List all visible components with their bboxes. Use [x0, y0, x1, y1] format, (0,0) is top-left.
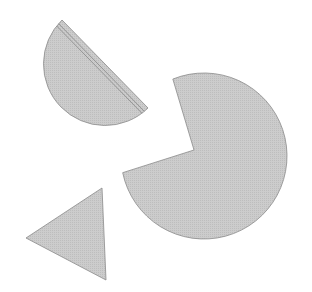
triangle-shape [26, 188, 106, 280]
semicircle-shape [43, 20, 148, 126]
geometric-shapes-figure [0, 0, 312, 292]
pacman-shape [123, 73, 287, 239]
shapes-layer [26, 20, 287, 280]
